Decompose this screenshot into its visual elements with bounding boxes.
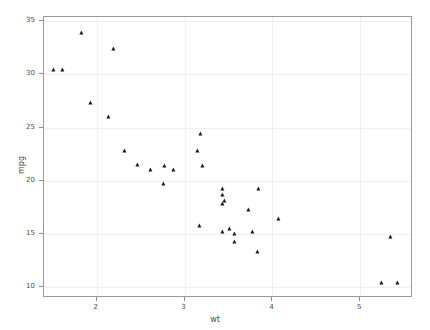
x-axis-tick [184,297,185,301]
data-point [162,182,166,186]
data-point [380,280,384,284]
plot-area [43,16,412,297]
y-axis-tick-label: 35 [11,16,35,24]
x-axis-tick-label: 4 [256,303,286,311]
data-point [395,280,399,284]
y-axis-tick [39,233,43,234]
x-axis-tick-label: 2 [81,303,111,311]
data-point [122,149,126,153]
data-point [201,163,205,167]
y-axis-tick [39,180,43,181]
data-point [221,192,225,196]
x-axis-tick [96,297,97,301]
data-point [163,163,167,167]
y-axis-tick [39,127,43,128]
y-axis-tick-label: 10 [11,282,35,290]
data-point [149,168,153,172]
data-point [88,101,92,105]
x-axis-title: wt [0,315,430,324]
data-point [60,68,64,72]
x-axis-tick-label: 5 [344,303,374,311]
data-point [388,235,392,239]
y-axis-tick [39,73,43,74]
data-point [197,223,201,227]
data-point [199,131,203,135]
data-point [256,250,260,254]
data-point [220,229,224,233]
data-point [221,187,225,191]
y-axis-tick-label: 30 [11,69,35,77]
data-point [195,149,199,153]
data-point [246,207,250,211]
data-point [112,46,116,50]
data-point [250,229,254,233]
data-point [228,226,232,230]
data-point [51,68,55,72]
data-point [106,114,110,118]
y-axis-tick [39,286,43,287]
x-axis-tick [359,297,360,301]
data-point [221,202,225,206]
y-axis-tick-label: 20 [11,176,35,184]
x-axis-tick [271,297,272,301]
data-point [80,30,84,34]
y-axis-tick [39,20,43,21]
y-axis-title: mpg [17,156,26,174]
data-point [276,217,280,221]
data-point [171,168,175,172]
data-points-layer [44,17,411,296]
data-point [232,239,236,243]
data-point [256,187,260,191]
y-axis-tick-label: 25 [11,123,35,131]
scatter-plot-figure: 2345101520253035 mpg wt [0,0,430,330]
data-point [232,232,236,236]
data-point [135,162,139,166]
y-axis-tick-label: 15 [11,229,35,237]
x-axis-tick-label: 3 [169,303,199,311]
